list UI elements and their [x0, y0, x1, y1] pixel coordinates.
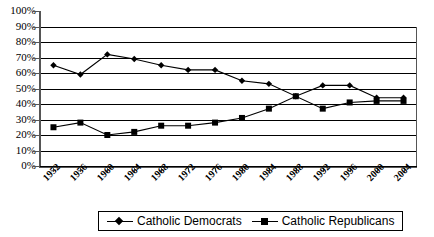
data-point-square[interactable]	[77, 120, 83, 126]
data-point-square[interactable]	[131, 129, 137, 135]
data-series-layer	[40, 11, 417, 166]
legend-item-catholic-democrats[interactable]: Catholic Democrats	[107, 214, 242, 228]
data-point-square[interactable]	[185, 123, 191, 129]
data-point-square[interactable]	[266, 106, 272, 112]
data-point-diamond[interactable]	[50, 62, 56, 68]
y-tick	[33, 120, 39, 121]
data-point-square[interactable]	[212, 120, 218, 126]
y-tick	[33, 11, 39, 12]
gridline	[40, 166, 417, 167]
data-point-diamond[interactable]	[239, 78, 245, 84]
data-point-square[interactable]	[239, 115, 245, 121]
y-tick	[33, 27, 39, 28]
data-point-square[interactable]	[293, 93, 299, 99]
series-line-democrats	[53, 54, 403, 97]
y-tick	[33, 151, 39, 152]
y-tick	[33, 73, 39, 74]
data-point-diamond[interactable]	[158, 62, 164, 68]
data-point-square[interactable]	[158, 123, 164, 129]
y-tick	[33, 42, 39, 43]
data-point-diamond[interactable]	[212, 67, 218, 73]
data-point-diamond[interactable]	[266, 81, 272, 87]
legend-label: Catholic Republicans	[282, 214, 395, 228]
y-tick	[33, 89, 39, 90]
chart-legend: Catholic Democrats Catholic Republicans	[98, 211, 403, 231]
y-axis-labels: 100%90%80%70%60%50%40%30%20%10%0%	[0, 0, 36, 237]
chart-container: 100%90%80%70%60%50%40%30%20%10%0% 195219…	[0, 0, 434, 237]
data-point-square[interactable]	[374, 98, 380, 104]
data-point-square[interactable]	[320, 106, 326, 112]
y-tick	[33, 104, 39, 105]
plot-area	[40, 11, 417, 166]
legend-label: Catholic Democrats	[137, 214, 242, 228]
data-point-diamond[interactable]	[346, 82, 352, 88]
data-point-square[interactable]	[104, 132, 110, 138]
y-tick	[33, 166, 39, 167]
legend-item-catholic-republicans[interactable]: Catholic Republicans	[252, 214, 395, 228]
data-point-diamond[interactable]	[320, 82, 326, 88]
data-point-square[interactable]	[401, 98, 407, 104]
y-tick	[33, 58, 39, 59]
data-point-diamond[interactable]	[131, 56, 137, 62]
data-point-square[interactable]	[50, 124, 56, 130]
y-tick	[33, 135, 39, 136]
data-point-square[interactable]	[347, 99, 353, 105]
square-marker-icon	[252, 216, 278, 226]
data-point-diamond[interactable]	[185, 67, 191, 73]
diamond-marker-icon	[107, 216, 133, 226]
